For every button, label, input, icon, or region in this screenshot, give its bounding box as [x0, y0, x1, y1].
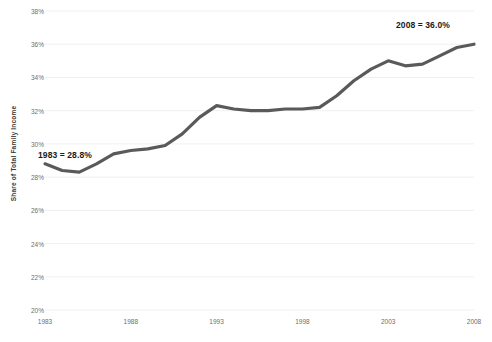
line-chart: Share of Total Family Income 38%36%34%32… — [0, 0, 492, 342]
gridlines — [45, 11, 474, 310]
series-line-share-of-total-family-income — [45, 44, 474, 172]
annotation-start-value: 1983 = 28.8% — [38, 150, 92, 160]
plot-area — [0, 0, 492, 342]
annotation-end-value: 2008 = 36.0% — [396, 20, 450, 30]
